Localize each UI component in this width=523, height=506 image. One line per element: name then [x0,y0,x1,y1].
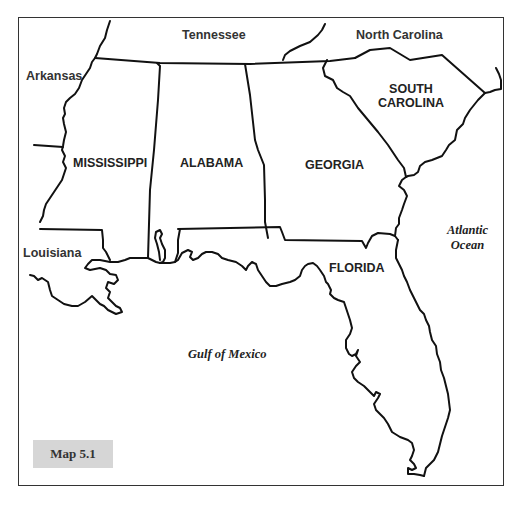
label-alabama: ALABAMA [180,157,243,170]
map-number-badge: Map 5.1 [33,440,113,468]
label-south-carolina-line1: SOUTH [378,82,444,96]
georgia-florida-border [178,227,395,248]
label-north-carolina: North Carolina [356,29,443,42]
label-south-carolina-line2: CAROLINA [378,96,444,110]
alabama-georgia-border [245,64,268,238]
label-mississippi: MISSISSIPPI [73,157,147,170]
arkansas-louisiana-border [34,145,63,147]
louisiana-gulf-coast [30,258,148,314]
florida-atlantic-coast [396,240,450,476]
label-atlantic-ocean: Atlantic Ocean [447,223,488,253]
label-arkansas: Arkansas [26,70,82,83]
north-carolina-border [283,24,325,60]
label-atlantic-line1: Atlantic [447,223,488,238]
mississippi-alabama-border [148,63,160,258]
label-florida: FLORIDA [329,262,385,275]
label-tennessee: Tennessee [182,29,246,42]
label-georgia: GEORGIA [305,159,364,172]
florida-gulf-coast [160,250,424,476]
label-atlantic-line2: Ocean [447,238,488,253]
mississippi-river-border [40,21,110,222]
tennessee-southern-border [95,58,355,64]
label-louisiana: Louisiana [23,247,81,260]
label-south-carolina: SOUTH CAROLINA [378,82,444,110]
mobile-bay-coast [148,230,165,263]
label-gulf-of-mexico: Gulf of Mexico [188,348,266,361]
georgia-coast [395,177,407,240]
map-number-text: Map 5.1 [50,446,96,462]
nc-coast [485,68,501,93]
